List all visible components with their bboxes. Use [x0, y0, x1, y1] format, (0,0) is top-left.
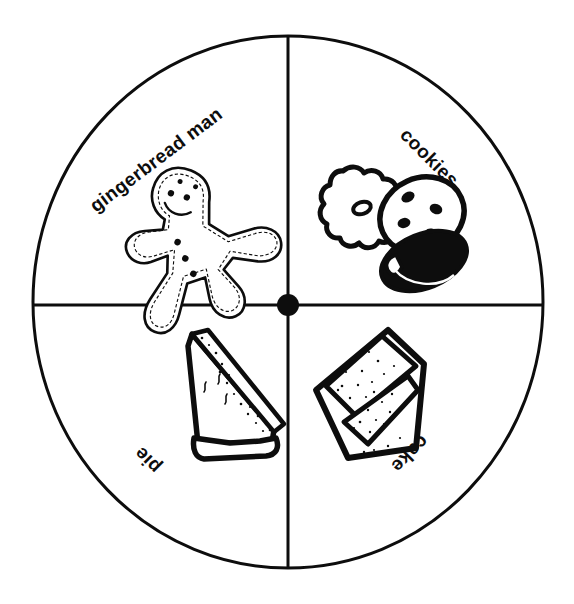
pie-bottom-crust — [193, 438, 277, 459]
spinner-stage: gingerbread man — [0, 0, 574, 604]
spinner-wheel-graphic[interactable]: gingerbread man — [0, 0, 574, 604]
spinner-center-hub[interactable] — [277, 294, 299, 316]
